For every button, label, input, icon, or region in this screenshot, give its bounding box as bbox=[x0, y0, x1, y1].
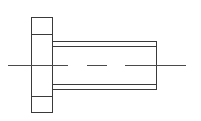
flanged-bushing-drawing bbox=[0, 0, 201, 121]
